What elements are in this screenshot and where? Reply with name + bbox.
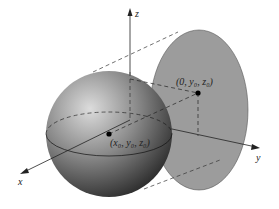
x-axis-label: x bbox=[18, 176, 22, 187]
diagram-canvas bbox=[0, 0, 279, 209]
y-axis-label: y bbox=[256, 152, 260, 163]
projection-point-label: (0, y₀, z₀) bbox=[176, 76, 213, 87]
y-axis-arrow-icon bbox=[251, 144, 260, 150]
z-axis-label: z bbox=[135, 8, 139, 19]
sphere-projection-diagram: z y x (0, y₀, z₀) (x₀, y₀, z₀) bbox=[0, 0, 279, 209]
x-axis-arrow-icon bbox=[20, 168, 29, 174]
projection-point bbox=[195, 90, 200, 95]
center-point bbox=[106, 131, 111, 136]
z-axis-arrow-icon bbox=[128, 8, 133, 16]
center-point-label: (x₀, y₀, z₀) bbox=[110, 137, 150, 148]
